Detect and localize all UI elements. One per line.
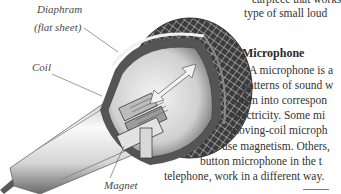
body-line: electricity. Some mi — [233, 108, 325, 123]
diaphram-label: Diaphram — [37, 2, 82, 16]
body-line: A microphone is a — [249, 63, 333, 78]
body-line: patterns of sound w — [243, 78, 333, 93]
body-line: button microphone in the t — [200, 154, 322, 169]
body-line: moving-coil microph — [230, 123, 327, 138]
body-line: use magnetism. Others, — [222, 139, 330, 154]
body-line: telephone, work in a different way. — [164, 169, 324, 184]
divider — [303, 189, 329, 190]
diaphram-sublabel: (flat sheet) — [34, 20, 81, 34]
body-line: them into correspon — [235, 93, 327, 108]
coil-label: Coil — [32, 60, 51, 74]
body-line: type of small loud — [244, 6, 327, 21]
magnet-label: Magnet — [104, 178, 138, 192]
section-heading: Microphone — [242, 46, 304, 61]
